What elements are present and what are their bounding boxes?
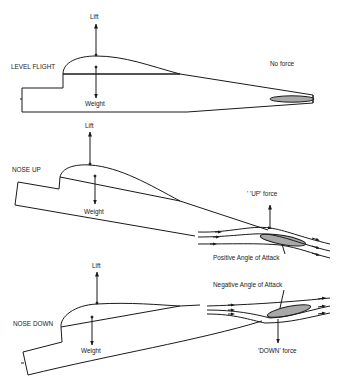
- weight-label: Weight: [85, 101, 105, 107]
- tail-force-label: No force: [270, 61, 294, 67]
- lift-label: Lift: [90, 14, 99, 20]
- nose-up-panel: [15, 132, 330, 258]
- fuselage-outline: [22, 74, 313, 112]
- lift-label: Lift: [85, 123, 94, 129]
- panel-title-nose-down: NOSE DOWN: [13, 321, 53, 327]
- positive-angle-label: Positive Angle of Attack: [213, 255, 279, 261]
- negative-angle-label: Negative Angle of Attack: [213, 282, 282, 288]
- tailplane: [270, 96, 314, 102]
- nose-down-panel: [21, 272, 330, 375]
- weight-label: Weight: [84, 209, 104, 215]
- weight-label: Weight: [81, 348, 101, 354]
- level-flight-panel: [20, 24, 314, 112]
- panel-title-nose-up: NOSE UP: [12, 167, 41, 173]
- fuselage-outline: [23, 321, 262, 375]
- up-force-label: ' 'UP' force: [247, 191, 277, 197]
- wing-aerofoil: [60, 165, 180, 201]
- panel-title-level-flight: LEVEL FLIGHT: [11, 64, 55, 70]
- down-force-label: 'DOWN' force: [258, 348, 297, 354]
- wing-aerofoil: [63, 56, 180, 74]
- lift-label: Lift: [92, 263, 101, 269]
